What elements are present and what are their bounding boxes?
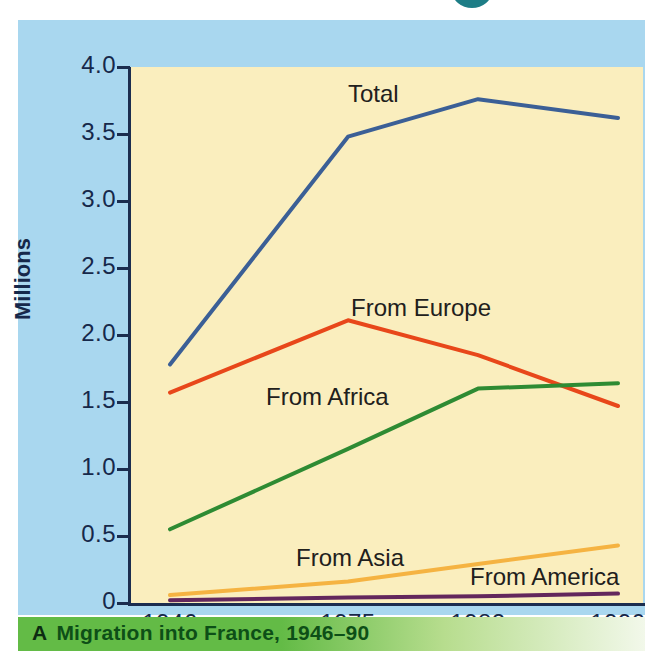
- series-label-total: Total: [348, 80, 399, 108]
- y-tick-mark: [117, 602, 130, 605]
- series-label-from-europe: From Europe: [351, 294, 491, 322]
- y-tick-label: 0.5: [40, 520, 116, 548]
- y-tick-mark: [117, 468, 130, 471]
- y-tick-mark: [117, 267, 130, 270]
- y-tick-mark: [117, 401, 130, 404]
- y-tick-label: 4.0: [40, 51, 116, 79]
- chart-figure: 00.51.01.52.02.53.03.54.0 19461975198219…: [0, 0, 663, 662]
- y-tick-mark: [117, 200, 130, 203]
- y-tick-mark: [117, 334, 130, 337]
- series-label-from-africa: From Africa: [266, 383, 389, 411]
- decorative-circle-icon: [452, 0, 492, 8]
- y-tick-label: 3.5: [40, 118, 116, 146]
- caption-letter: A: [32, 621, 47, 644]
- y-tick-label: 0: [40, 587, 116, 615]
- y-tick-mark: [117, 535, 130, 538]
- y-tick-mark: [117, 66, 130, 69]
- y-axis-title: Millions: [10, 238, 36, 320]
- caption-title: Migration into France, 1946–90: [56, 621, 369, 644]
- y-tick-label: 3.0: [40, 185, 116, 213]
- y-tick-mark: [117, 133, 130, 136]
- y-tick-label: 2.0: [40, 319, 116, 347]
- x-axis-line: [128, 603, 645, 606]
- series-label-from-america: From America: [470, 563, 619, 591]
- chart-panel: 00.51.01.52.02.53.03.54.0 19461975198219…: [18, 20, 645, 615]
- y-tick-label: 1.0: [40, 453, 116, 481]
- y-tick-label: 2.5: [40, 252, 116, 280]
- y-tick-label: 1.5: [40, 386, 116, 414]
- caption-text: AMigration into France, 1946–90: [32, 621, 369, 645]
- series-label-from-asia: From Asia: [296, 544, 404, 572]
- plot-area: [130, 67, 643, 603]
- caption-bar: AMigration into France, 1946–90: [18, 617, 645, 651]
